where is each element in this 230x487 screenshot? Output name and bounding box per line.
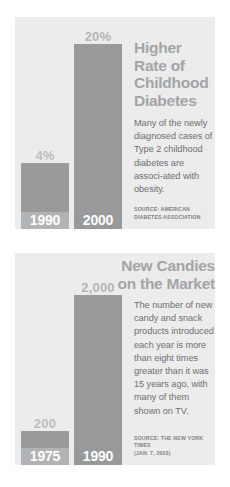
bar-value-label: 4% <box>21 149 69 163</box>
source-line-2: (JAN. 7, 2003) <box>134 450 215 457</box>
bar-year-label: 2000 <box>74 212 122 229</box>
panel-headline: New Candies on the Market <box>111 253 215 292</box>
bar-rect <box>21 163 69 212</box>
bar-group-1975: 200 1975 <box>21 253 69 465</box>
source-line-1: SOURCE: AMERICAN <box>134 206 201 213</box>
panel-body-text: The number of new candy and snack produc… <box>134 292 215 418</box>
bar-group-2000: 20% 2000 <box>74 17 122 229</box>
bar-rect <box>21 431 69 448</box>
panel-source-credit: SOURCE: THE NEW YORK TIMES (JAN. 7, 2003… <box>134 435 215 457</box>
panel-headline: Higher Rate of Childhood Diabetes <box>134 17 215 109</box>
copy-column-candies: New Candies on the Market The number of … <box>134 253 215 465</box>
copy-column-diabetes: Higher Rate of Childhood Diabetes Many o… <box>134 17 215 229</box>
bar-rect <box>74 295 122 448</box>
bar-year-label: 1975 <box>21 448 69 465</box>
bar-value-label: 200 <box>21 417 69 431</box>
panel-source-credit: SOURCE: AMERICAN DIABETES ASSOCIATION <box>134 206 201 221</box>
bar-rect <box>74 44 122 212</box>
infographic-page: 4% 1990 20% 2000 Higher Rate of Childhoo… <box>0 0 230 487</box>
source-line-2: DIABETES ASSOCIATION <box>134 214 201 221</box>
source-line-1: SOURCE: THE NEW YORK TIMES <box>134 435 215 450</box>
panel-body-text: Many of the newly diagnosed cases of Typ… <box>134 109 215 196</box>
bar-value-label: 20% <box>74 30 122 44</box>
bar-group-1990: 4% 1990 <box>21 17 69 229</box>
bar-year-label: 1990 <box>74 448 122 465</box>
panel-new-candies: 200 1975 2,000 1990 New Candies on the M… <box>15 253 215 465</box>
bar-chart-diabetes: 4% 1990 20% 2000 <box>15 17 127 229</box>
bar-year-label: 1990 <box>21 212 69 229</box>
panel-childhood-diabetes: 4% 1990 20% 2000 Higher Rate of Childhoo… <box>15 17 215 229</box>
